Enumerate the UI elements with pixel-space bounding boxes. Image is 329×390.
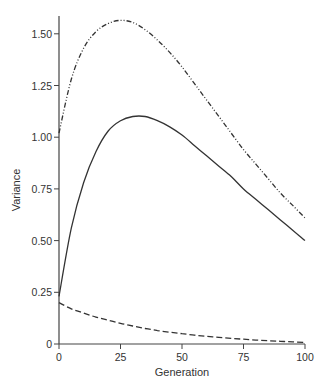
series-lines: [59, 20, 305, 342]
x-tick-label: 50: [176, 351, 188, 363]
solid-series-line: [59, 116, 305, 296]
dashdotdot-series-line: [59, 20, 305, 218]
x-axis-ticks: 0255075100: [56, 344, 314, 363]
axes: [59, 16, 305, 344]
y-tick-label: 1.00: [32, 131, 53, 143]
x-axis-label: Generation: [155, 366, 209, 378]
x-tick-label: 0: [56, 351, 62, 363]
y-tick-label: 1.50: [32, 28, 53, 40]
x-tick-label: 75: [238, 351, 250, 363]
dashed-series-line: [59, 303, 305, 343]
x-tick-label: 100: [296, 351, 314, 363]
y-tick-label: 0: [46, 338, 52, 350]
y-tick-label: 1.25: [32, 80, 53, 92]
y-tick-label: 0.25: [32, 286, 53, 298]
y-tick-label: 0.75: [32, 183, 53, 195]
y-axis-label: Variance: [10, 169, 22, 212]
x-tick-label: 25: [115, 351, 127, 363]
y-axis-ticks: 00.250.500.751.001.251.50: [32, 28, 59, 350]
line-chart: 00.250.500.751.001.251.50 0255075100 Gen…: [0, 0, 329, 390]
y-tick-label: 0.50: [32, 235, 53, 247]
